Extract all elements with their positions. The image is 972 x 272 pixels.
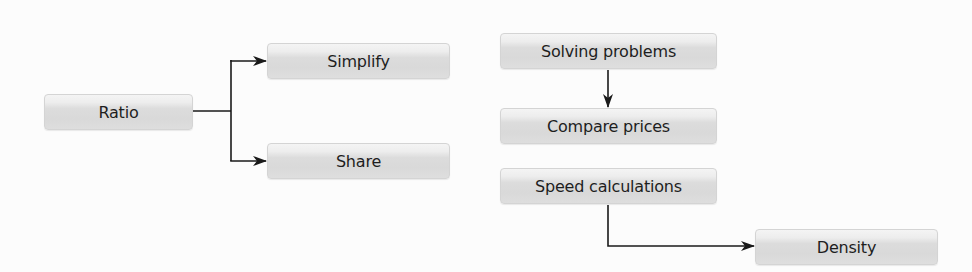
node-label: Speed calculations	[535, 177, 682, 196]
node-label: Share	[336, 152, 381, 171]
node-simplify: Simplify	[267, 43, 450, 79]
node-label: Ratio	[98, 103, 138, 122]
edge-speed-to-density	[608, 205, 754, 246]
node-label: Simplify	[327, 52, 389, 71]
node-label: Solving problems	[541, 42, 676, 61]
node-solving-problems: Solving problems	[500, 33, 717, 69]
node-compare-prices: Compare prices	[500, 108, 717, 144]
node-share: Share	[267, 143, 450, 179]
node-speed-calculations: Speed calculations	[500, 168, 717, 204]
node-ratio: Ratio	[44, 94, 193, 130]
node-label: Compare prices	[547, 117, 670, 136]
edge-ratio-branch	[193, 60, 231, 161]
node-density: Density	[755, 229, 938, 265]
node-label: Density	[817, 238, 876, 257]
